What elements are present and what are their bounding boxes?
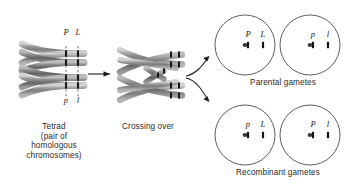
arrow-crossing-to-parental-icon bbox=[186, 56, 210, 76]
gamete-recombinant-1-allele-2: L bbox=[257, 119, 269, 129]
diagram-canvas bbox=[0, 0, 347, 190]
caption-recombinant-gametes: Recombinant gametes bbox=[212, 168, 344, 178]
arrow-crossing-to-recombinant-icon bbox=[186, 78, 210, 102]
tetrad-allele-bottom-l: l bbox=[72, 95, 84, 105]
caption-tetrad: Tetrad (pair of homologous chromosomes) bbox=[2, 122, 106, 160]
gamete-parental-1-allele-2: L bbox=[257, 29, 269, 39]
gamete-parental-2 bbox=[280, 15, 340, 75]
gamete-recombinant-1-allele-1: p bbox=[242, 119, 254, 129]
caption-parental-gametes: Parental gametes bbox=[222, 78, 344, 88]
gamete-recombinant-2-allele-1: P bbox=[307, 119, 319, 129]
arrow-tetrad-to-crossing-icon bbox=[88, 71, 110, 77]
gamete-recombinant-1 bbox=[215, 105, 275, 165]
crossing-over-figure bbox=[120, 50, 182, 100]
gamete-parental-1-allele-1: P bbox=[242, 29, 254, 39]
tetrad-allele-bottom-p: p bbox=[60, 95, 72, 105]
tetrad-allele-top-L: L bbox=[72, 27, 84, 37]
crossing-over-diagram: P L p l P L p l p L P l Tetrad (pair of … bbox=[0, 0, 347, 190]
gamete-recombinant-2-allele-2: l bbox=[322, 119, 334, 129]
gamete-parental-2-allele-2: l bbox=[322, 29, 334, 39]
caption-crossing-over: Crossing over bbox=[96, 122, 200, 132]
gamete-recombinant-2 bbox=[280, 105, 340, 165]
gamete-parental-2-allele-1: p bbox=[307, 29, 319, 39]
tetrad-figure bbox=[22, 44, 84, 96]
gamete-parental-1 bbox=[215, 15, 275, 75]
tetrad-allele-top-P: P bbox=[60, 27, 72, 37]
